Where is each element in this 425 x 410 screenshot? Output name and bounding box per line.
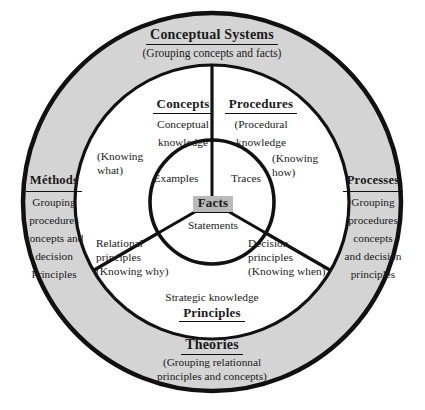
- relational-line1: Relational: [96, 237, 143, 249]
- label-processes: Processes Grouping procedures concepts a…: [326, 172, 420, 282]
- decision-line3: (Knowing when): [248, 265, 326, 277]
- label-theories: Theories (Grouping relationnal principle…: [117, 337, 307, 384]
- methods-heading: Méthods: [26, 172, 82, 192]
- knowing-how-line2: how): [272, 166, 295, 178]
- theories-subtitle-line1: (Grouping relationnal: [117, 356, 307, 370]
- relational-line3: (Knowing why): [96, 265, 168, 277]
- label-statements: Statements: [168, 219, 258, 232]
- theories-subtitle-line2: principles and concepts): [117, 370, 307, 384]
- label-relational-principles: Relational principles (Knowing why): [96, 237, 172, 279]
- procedures-line2: knowledge: [215, 135, 307, 149]
- knowing-what-line1: (Knowing: [97, 150, 143, 162]
- label-examples: Examples: [148, 172, 204, 185]
- processes-line1: Grouping: [326, 194, 420, 210]
- methods-line4: decision: [8, 248, 100, 264]
- label-procedures: Procedures (Procedural knowledge: [215, 96, 307, 149]
- methods-line1: Grouping: [8, 194, 100, 210]
- methods-line3: concepts and: [8, 230, 100, 246]
- knowledge-wheel-diagram: Conceptual Systems (Grouping concepts an…: [0, 0, 425, 410]
- concepts-line2: knowledge: [141, 135, 225, 149]
- processes-line4: and decision: [326, 248, 420, 264]
- label-traces: Traces: [222, 172, 270, 185]
- label-principles: Strategic knowledge Principles: [132, 291, 292, 322]
- conceptual-systems-heading: Conceptual Systems: [146, 27, 278, 45]
- label-knowing-how: (Knowing how): [272, 152, 330, 180]
- label-methods: Méthods Grouping procedures concepts and…: [8, 172, 100, 282]
- strategic-knowledge-text: Strategic knowledge: [132, 291, 292, 304]
- procedures-heading: Procedures: [225, 96, 297, 114]
- knowing-what-line2: what): [97, 164, 123, 176]
- decision-line2: principles: [248, 251, 293, 263]
- methods-line2: procedures: [8, 212, 100, 228]
- label-decision-principles: Decision principles (Knowing when): [248, 237, 328, 279]
- concepts-line1: Conceptual: [141, 117, 225, 131]
- methods-line5: Principles: [8, 266, 100, 282]
- concepts-heading: Concepts: [153, 96, 214, 114]
- knowing-how-line1: (Knowing: [272, 152, 318, 164]
- label-conceptual-systems: Conceptual Systems (Grouping concepts an…: [112, 27, 312, 60]
- label-knowing-what: (Knowing what): [97, 150, 155, 178]
- label-facts: Facts: [180, 193, 246, 213]
- procedures-line1: (Procedural: [215, 117, 307, 131]
- conceptual-systems-subtitle: (Grouping concepts and facts): [112, 47, 312, 60]
- label-concepts: Concepts Conceptual knowledge: [141, 96, 225, 149]
- relational-line2: principles: [96, 251, 141, 263]
- processes-line5: principles: [326, 266, 420, 282]
- processes-line2: procedures: [326, 212, 420, 228]
- decision-line1: Decision: [248, 237, 289, 249]
- processes-heading: Processes: [343, 172, 404, 192]
- theories-heading: Theories: [181, 337, 243, 355]
- facts-heading: Facts: [193, 196, 234, 213]
- processes-line3: concepts: [326, 230, 420, 246]
- principles-heading: Principles: [179, 306, 245, 323]
